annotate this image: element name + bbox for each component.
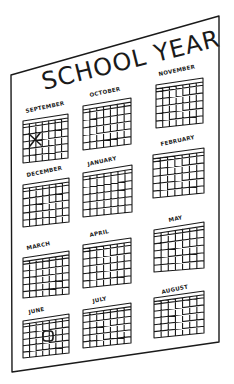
calendar-grid-february (153, 148, 204, 198)
month-label-june: JUNE (27, 306, 45, 316)
calendar-grid-lines (154, 222, 204, 272)
month-label-october: OCTOBER (89, 85, 121, 97)
month-label-march: MARCH (26, 240, 51, 251)
calendar-grid-lines (83, 303, 131, 348)
calendar-grid-lines (23, 114, 68, 163)
calendar-grid-march (23, 251, 69, 298)
calendar-grid-june (23, 314, 69, 358)
calendar-grid-july (83, 303, 131, 348)
calendar-grid-lines (154, 291, 204, 338)
month-label-may: MAY (168, 214, 184, 223)
calendar-grid-lines (23, 178, 69, 227)
calendar-grid-lines (153, 148, 204, 198)
poster-title: SCHOOL YEAR (39, 24, 223, 95)
month-label-april: APRIL (89, 228, 110, 238)
month-label-december: DECEMBER (26, 164, 63, 177)
calendar-grid-august (154, 291, 204, 338)
calendar-grid-january (83, 165, 132, 217)
month-label-january: JANUARY (86, 155, 118, 168)
calendar-grid-october (83, 98, 131, 150)
calendar-grid-may (154, 222, 204, 272)
calendar-grid-april (83, 238, 131, 288)
school-year-poster: SCHOOL YEAR SEPTEMBER OCTOBER NOVEMBER D… (0, 0, 234, 384)
calendar-grid-lines (83, 98, 131, 150)
calendar-grid-lines (83, 165, 132, 217)
calendar-grid-september (23, 114, 68, 163)
calendar-grid-lines (23, 251, 69, 298)
month-label-september: SEPTEMBER (25, 100, 65, 114)
calendar-grid-november (156, 78, 203, 128)
month-label-july: JULY (91, 295, 108, 305)
calendar-grid-lines (23, 314, 69, 358)
calendar-grid-december (23, 178, 69, 227)
calendar-grid-lines (156, 78, 203, 128)
month-label-february: FEBRUARY (160, 134, 196, 147)
calendar-grid-lines (83, 238, 131, 288)
